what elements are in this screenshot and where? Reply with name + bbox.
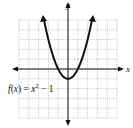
y-axis	[66, 2, 71, 126]
x-axis-label: x	[125, 64, 130, 74]
y-axis-label: y	[65, 0, 70, 10]
arrow-left-icon	[12, 67, 18, 72]
curve-arrow-right-icon	[89, 15, 96, 22]
function-label: f(x) = x2 − 1	[8, 83, 54, 95]
arrow-right-icon	[118, 67, 124, 72]
function-graph: x y f(x) = x2 − 1	[0, 0, 133, 128]
curve-arrow-left-icon	[40, 15, 47, 22]
arrow-down-icon	[66, 120, 71, 126]
